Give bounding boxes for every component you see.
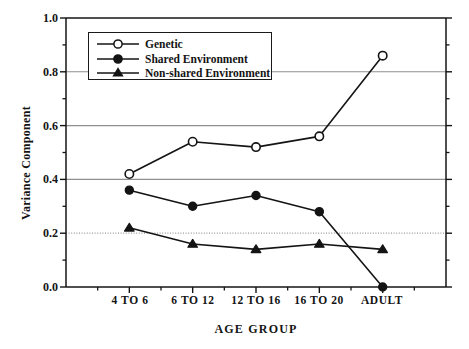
y-tick-label-0.8: 0.8 [12,66,58,78]
datapoint-shared-environment-0 [125,186,133,194]
datapoint-genetic-2 [252,143,260,151]
datapoint-non-shared-environment-0 [125,223,135,231]
x-tick-label-adult: ADULT [342,294,422,306]
y-tick-label-0.0: 0.0 [12,281,58,293]
datapoint-non-shared-environment-3 [315,239,325,247]
datapoint-shared-environment-3 [315,208,323,216]
datapoint-shared-environment-4 [379,283,387,291]
datapoint-genetic-4 [378,51,386,59]
datapoint-shared-environment-2 [252,192,260,200]
filled-triangle-marker-icon [95,65,141,81]
x-axis-title: AGE GROUP [66,322,446,337]
datapoint-genetic-1 [188,138,196,146]
legend: Genetic Shared Environment Non-shared En… [88,32,272,80]
legend-label-non-shared-environment: Non-shared Environment [145,65,270,81]
datapoint-genetic-3 [315,132,323,140]
datapoint-shared-environment-1 [189,202,197,210]
series-line-shared-environment [129,190,382,287]
legend-entry-non-shared-environment: Non-shared Environment [89,65,273,81]
legend-entry-genetic: Genetic [89,36,273,52]
variance-component-line-chart: Variance Component AGE GROUP 1.0 0.8 0.6… [0,0,469,349]
y-tick-label-0.6: 0.6 [12,120,58,132]
datapoint-genetic-0 [125,170,133,178]
y-tick-label-1.0: 1.0 [12,12,58,24]
y-tick-label-0.2: 0.2 [12,227,58,239]
open-circle-marker-icon [95,36,141,52]
y-tick-label-0.4: 0.4 [12,173,58,185]
legend-label-genetic: Genetic [145,36,183,52]
